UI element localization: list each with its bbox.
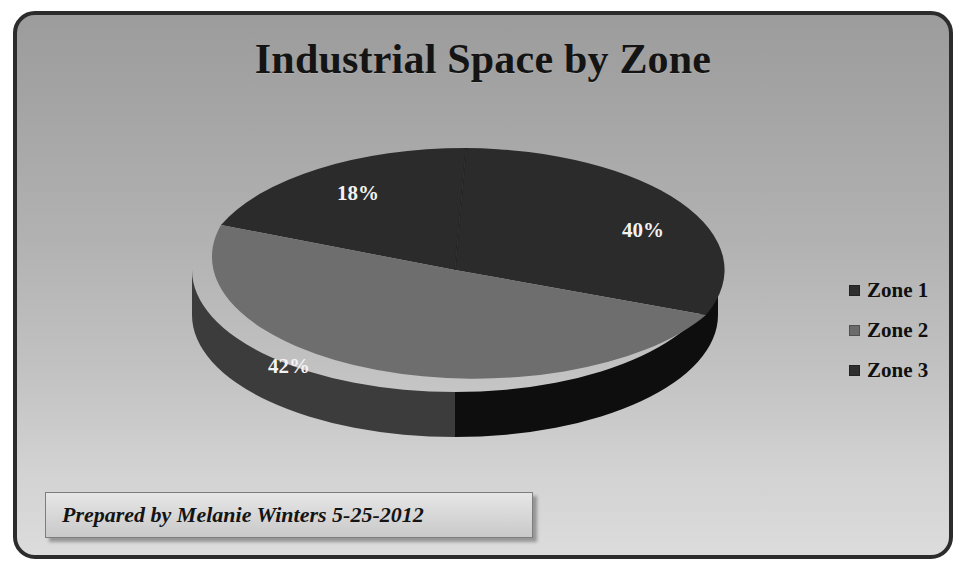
legend-label-zone-2: Zone 2 — [867, 320, 928, 341]
pie-chart[interactable]: 18% 40% 42% — [177, 145, 747, 475]
legend-swatch-icon-zone-2 — [849, 325, 860, 336]
footer-prepared-by-text: Prepared by Melanie Winters — [62, 502, 327, 527]
legend-item-zone-2[interactable]: Zone 2 — [849, 313, 953, 347]
slice-label-zone-3: 18% — [337, 181, 379, 205]
legend: Zone 1 Zone 2 Zone 3 — [849, 273, 953, 393]
footer-prepared-by: Prepared by Melanie Winters 5-25-2012 — [62, 502, 424, 528]
chart-frame: Industrial Space by Zone 18% 40% 42% — [13, 11, 953, 559]
legend-item-zone-3[interactable]: Zone 3 — [849, 353, 953, 387]
slice-label-zone-2: 42% — [268, 354, 310, 378]
footer-date: 5-25-2012 — [332, 502, 424, 527]
legend-item-zone-1[interactable]: Zone 1 — [849, 273, 953, 307]
legend-swatch-icon-zone-3 — [849, 365, 860, 376]
legend-label-zone-3: Zone 3 — [867, 360, 928, 381]
pie-chart-svg[interactable]: 18% 40% 42% — [177, 145, 747, 475]
slice-label-zone-1: 40% — [622, 218, 664, 242]
footer-caption-box[interactable]: Prepared by Melanie Winters 5-25-2012 — [45, 492, 533, 538]
legend-swatch-icon-zone-1 — [849, 285, 860, 296]
page-title: Industrial Space by Zone — [17, 35, 949, 83]
legend-label-zone-1: Zone 1 — [867, 280, 928, 301]
